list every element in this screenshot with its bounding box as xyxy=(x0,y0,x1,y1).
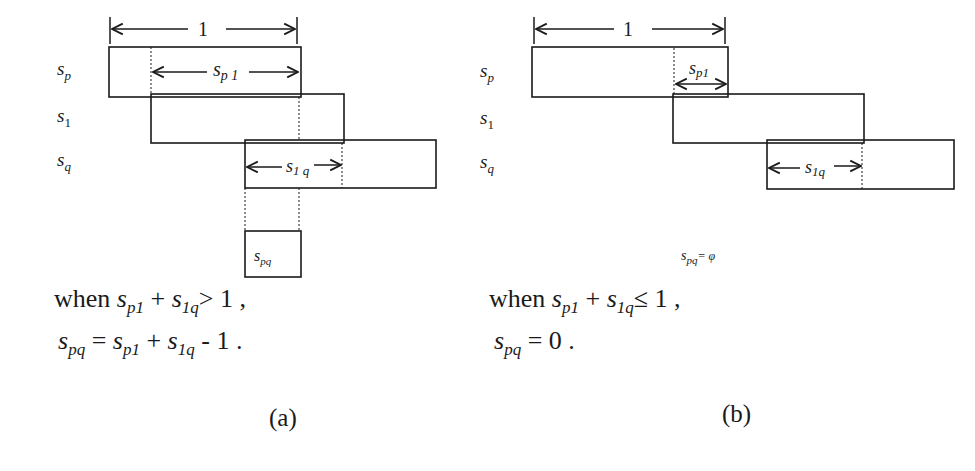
condition-a: when sp1 + s1q> 1 , xyxy=(54,284,246,318)
panel-b-diagram xyxy=(532,17,954,189)
span-label-sp1: sp1 xyxy=(689,58,709,80)
row-label-s1: s1 xyxy=(57,105,71,130)
span-label-s1q: s1 q xyxy=(286,156,310,178)
caption-b: (b) xyxy=(722,400,751,428)
row-label-s1: s1 xyxy=(480,107,494,132)
result-a: spq = sp1 + s1q - 1 . xyxy=(58,326,242,360)
row-label-sq: sq xyxy=(57,149,71,174)
unit-label: 1 xyxy=(623,18,633,40)
rect-s1 xyxy=(151,94,344,143)
caption-a: (a) xyxy=(269,404,297,432)
row-label-sq: sq xyxy=(480,151,494,176)
rect-s1 xyxy=(673,94,864,143)
empty-intersection-note: spq= φ xyxy=(681,248,716,266)
diagram-canvas: 1 sp s1 sq sp 1 s1 q spq 1 sp s1 sq sp1 … xyxy=(0,0,975,471)
row-label-sp: sp xyxy=(480,60,494,85)
result-box-label: spq xyxy=(254,247,272,267)
result-b: spq = 0 . xyxy=(494,326,575,360)
span-label-sp1: sp 1 xyxy=(213,58,238,83)
rect-sq xyxy=(767,140,954,189)
unit-label: 1 xyxy=(198,18,208,40)
rect-sq xyxy=(245,140,436,188)
span-label-s1q: s1q xyxy=(805,157,826,179)
panel-a-diagram xyxy=(109,17,436,277)
row-label-sp: sp xyxy=(57,58,71,83)
condition-b: when sp1 + s1q≤ 1 , xyxy=(489,284,681,318)
